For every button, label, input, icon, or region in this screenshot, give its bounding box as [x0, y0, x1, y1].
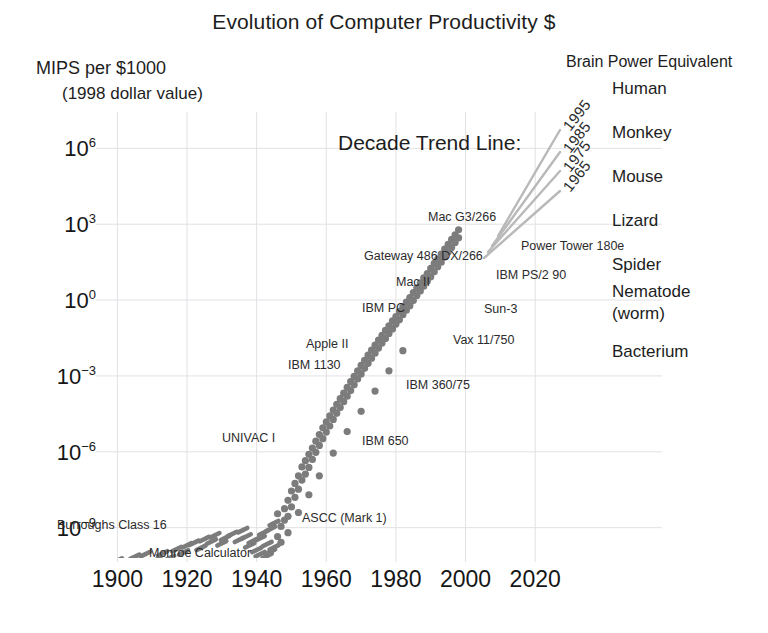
- brain-power-item: Lizard: [612, 210, 658, 232]
- brain-power-item: Monkey: [612, 122, 672, 144]
- brain-power-list: HumanMonkeyMouseLizardSpiderNematode(wor…: [0, 0, 768, 633]
- brain-power-item: Nematode: [612, 281, 690, 303]
- brain-power-item: Bacterium: [612, 341, 689, 363]
- brain-power-item: Mouse: [612, 166, 663, 188]
- brain-power-item: (worm): [612, 303, 665, 325]
- brain-power-item: Human: [612, 78, 667, 100]
- chart-root: Evolution of Computer Productivity $ MIP…: [0, 0, 768, 633]
- brain-power-item: Spider: [612, 254, 661, 276]
